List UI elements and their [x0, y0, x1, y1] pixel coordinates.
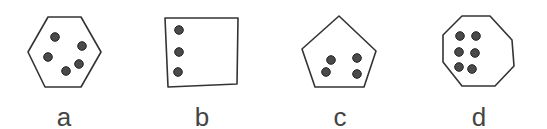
dot [472, 32, 481, 41]
hexagon-shape [28, 17, 101, 87]
dot [455, 48, 464, 57]
dot [456, 32, 465, 41]
pentagon-shape [302, 16, 376, 87]
dot [62, 67, 71, 76]
panel-label-b: b [195, 104, 209, 129]
shapes-figure [0, 0, 547, 129]
panel-label-d: d [472, 104, 486, 129]
dot [455, 63, 464, 72]
dot [175, 26, 184, 35]
dots-group [44, 33, 87, 76]
dots-group [322, 54, 362, 79]
dot [322, 68, 331, 77]
panel-c [302, 16, 376, 87]
panel-a [28, 17, 101, 87]
dot [75, 60, 84, 69]
dot [471, 49, 480, 58]
panel-label-a: a [57, 104, 71, 129]
dot [468, 65, 477, 74]
dots-group [174, 26, 184, 77]
dot [78, 42, 87, 51]
panel-d [443, 16, 514, 86]
dot [175, 48, 184, 57]
dot [353, 70, 362, 79]
panel-b [165, 18, 238, 87]
dot [174, 68, 183, 77]
panel-label-c: c [334, 104, 347, 129]
dot [44, 53, 53, 62]
dot [353, 54, 362, 63]
dots-group [455, 32, 481, 74]
dot [327, 56, 336, 65]
dot [51, 33, 60, 42]
